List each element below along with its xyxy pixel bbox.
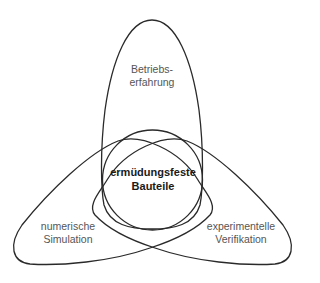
- label-numerische-simulation: numerische Simulation: [28, 220, 108, 246]
- center-label-line2: Bauteile: [97, 179, 209, 193]
- label-right-line1: experimentelle: [193, 220, 289, 233]
- label-ermuedungsfeste-bauteile: ermüdungsfeste Bauteile: [97, 165, 209, 193]
- center-label-line1: ermüdungsfeste: [97, 165, 209, 179]
- lobe-top-betriebserfahrung: [102, 20, 203, 229]
- label-right-line2: Verifikation: [193, 233, 289, 246]
- label-left-line1: numerische: [28, 220, 108, 233]
- label-left-line2: Simulation: [28, 233, 108, 246]
- label-top-line1: Betriebs-: [112, 63, 192, 76]
- label-experimentelle-verifikation: experimentelle Verifikation: [193, 220, 289, 246]
- label-betriebserfahrung: Betriebs- erfahrung: [112, 63, 192, 89]
- label-top-line2: erfahrung: [112, 76, 192, 89]
